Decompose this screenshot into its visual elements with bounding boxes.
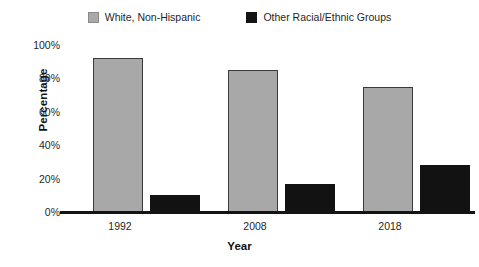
x-tick-label-1992: 1992 [60, 221, 180, 232]
bar-other-racial-ethnic-groups-2008 [285, 184, 335, 212]
y-axis-ticks: 100% 80% 60% 40% 20% 0% [18, 45, 60, 212]
bar-group-2008 [228, 45, 335, 212]
legend-label-white-non-hispanic: White, Non-Hispanic [105, 12, 201, 23]
y-tick-label: 20% [20, 173, 60, 184]
bar-chart-figure: White, Non-Hispanic Other Racial/Ethnic … [0, 0, 479, 267]
bar-group-2018 [363, 45, 470, 212]
black-swatch-icon [246, 12, 257, 23]
y-tick-label: 60% [20, 107, 60, 118]
legend-label-other-racial-ethnic-groups: Other Racial/Ethnic Groups [263, 12, 391, 23]
bar-group-1992 [93, 45, 200, 212]
legend-item-other-racial-ethnic-groups: Other Racial/Ethnic Groups [246, 12, 391, 23]
y-tick-label: 80% [20, 73, 60, 84]
x-axis-title: Year [0, 240, 479, 252]
bar-other-racial-ethnic-groups-1992 [150, 195, 200, 212]
y-tick-label: 100% [20, 40, 60, 51]
x-axis-line [60, 211, 475, 214]
bar-other-racial-ethnic-groups-2018 [420, 165, 470, 212]
bar-white-non-hispanic-2018 [363, 87, 413, 212]
bar-white-non-hispanic-2008 [228, 70, 278, 212]
y-tick-label: 40% [20, 140, 60, 151]
x-tick-label-2008: 2008 [195, 221, 315, 232]
bar-white-non-hispanic-1992 [93, 58, 143, 212]
gray-swatch-icon [88, 12, 99, 23]
plot-area [65, 45, 473, 212]
y-tick-label: 0% [20, 207, 60, 218]
chart-legend: White, Non-Hispanic Other Racial/Ethnic … [0, 12, 479, 23]
legend-item-white-non-hispanic: White, Non-Hispanic [88, 12, 201, 23]
x-tick-label-2018: 2018 [330, 221, 450, 232]
